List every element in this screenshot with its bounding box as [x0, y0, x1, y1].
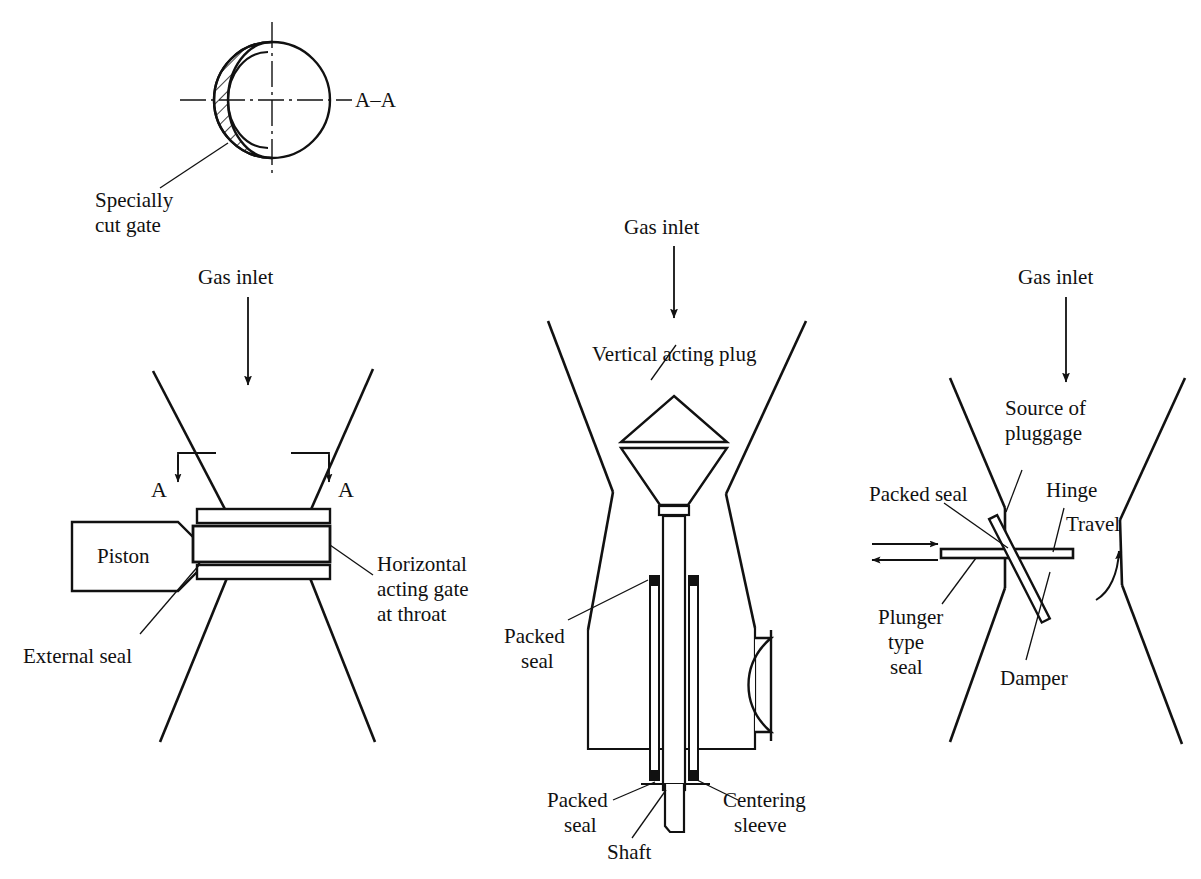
source-of-pluggage-label-line2: pluggage: [1005, 421, 1082, 446]
travel-arc-arrow: [1096, 551, 1119, 600]
packed-seal-lower-label-line1: Packed: [547, 788, 608, 813]
hinge-label: Hinge: [1046, 478, 1097, 503]
packed-seal-upper-label-line1: Packed: [504, 624, 565, 649]
packed-seal-upper-label-line2: seal: [521, 649, 554, 674]
centering-sleeve-label-line2: sleeve: [734, 813, 786, 838]
plunger-type-seal-label-line3: seal: [890, 655, 923, 680]
gate-band-top: [197, 509, 330, 523]
packed-seal-lower-label-line2: seal: [564, 813, 597, 838]
damper-wall-lower-right: [1122, 585, 1182, 744]
gas-inlet-label-middle: Gas inlet: [624, 215, 699, 240]
shaft-tip: [665, 784, 684, 832]
plunger-type-seal-label-line1: Plunger: [878, 605, 943, 630]
packed-seal-block-lower-right: [688, 770, 699, 781]
section-mark-right: A: [338, 477, 354, 502]
travel-label: Travel: [1066, 512, 1120, 537]
leader-specially-cut-gate: [160, 143, 228, 188]
horizontal-gate-label-line1: Horizontal: [377, 552, 467, 577]
packed-seal-block-lower-left: [649, 770, 660, 781]
horizontal-gate-label-line2: acting gate: [377, 577, 469, 602]
vplug-wall-lower-right: [726, 494, 755, 628]
horizontal-gate-label-line3: at throat: [377, 602, 446, 627]
section-aa-tag: A–A: [355, 88, 396, 113]
source-of-pluggage-label-line1: Source of: [1005, 396, 1086, 421]
gate-band-bottom: [197, 565, 330, 579]
shaft-label: Shaft: [607, 840, 651, 865]
damper-wall-neck-right: [1120, 520, 1122, 585]
vplug-wall-lower-left: [588, 492, 613, 630]
specially-cut-gate-label-line1: Specially: [95, 188, 173, 213]
leader-packed-seal-lower: [613, 782, 655, 800]
specially-cut-gate-label-line2: cut gate: [95, 213, 161, 238]
piston-label: Piston: [97, 544, 150, 569]
panel-vertical-plug-linework: [548, 246, 806, 838]
figure-root: A–A Specially cut gate Gas inlet A A Pis…: [0, 0, 1201, 879]
side-actuator: [749, 638, 772, 732]
gate-band-middle: [193, 526, 330, 562]
hopper-wall-lower-left: [160, 578, 227, 742]
plug-upper-cone: [621, 396, 727, 442]
centering-sleeve-label-line1: Centering: [723, 788, 806, 813]
leader-plunger-type-seal: [942, 558, 976, 604]
gas-inlet-label-left: Gas inlet: [198, 265, 273, 290]
plunger-type-seal-label-line2: type: [888, 630, 924, 655]
packed-seal-right-label: Packed seal: [869, 482, 968, 507]
centering-sleeve-left: [650, 578, 659, 778]
packed-seal-block-upper-right: [688, 575, 699, 586]
gas-inlet-label-right: Gas inlet: [1018, 265, 1093, 290]
leader-horizontal-gate: [330, 545, 373, 575]
damper-wall-upper-right: [1120, 378, 1185, 520]
leader-shaft: [632, 790, 666, 838]
panel-section-aa-linework: [160, 22, 352, 188]
shaft: [663, 516, 685, 790]
damper-wall-lower-left: [950, 588, 1005, 742]
external-seal-label: External seal: [23, 644, 132, 669]
plug-lower-cone: [621, 448, 727, 505]
hopper-wall-lower-right: [310, 578, 375, 742]
damper-label: Damper: [1000, 666, 1068, 691]
plug-collar: [659, 506, 689, 515]
leader-packed-seal-upper: [568, 580, 648, 620]
centering-sleeve-right: [689, 578, 698, 778]
panel-horizontal-gate-linework: [72, 297, 375, 742]
leader-source-of-pluggage: [1006, 470, 1022, 512]
section-bracket-right: [291, 453, 329, 470]
packed-seal-block-upper-left: [649, 575, 660, 586]
section-mark-left: A: [151, 477, 167, 502]
leader-hinge: [1053, 508, 1064, 552]
vertical-acting-plug-label: Vertical acting plug: [592, 342, 756, 367]
